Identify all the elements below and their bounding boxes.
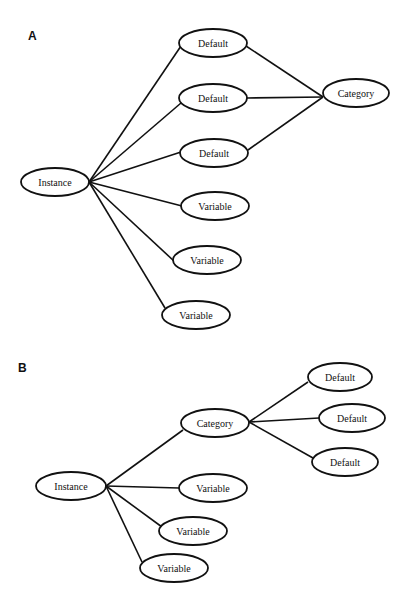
node-label: Instance	[38, 177, 72, 188]
node-default: Default	[312, 448, 378, 476]
node-default: Default	[308, 363, 372, 391]
node-label: Variable	[157, 563, 191, 574]
node-label: Default	[198, 93, 228, 104]
edge	[106, 486, 142, 562]
diagram-b: InstanceCategoryDefaultDefaultDefaultVar…	[18, 361, 385, 582]
node-instance: Instance	[36, 472, 106, 500]
edge	[89, 182, 165, 308]
edge	[106, 486, 162, 527]
node-label: Instance	[54, 481, 88, 492]
node-category: Category	[323, 79, 389, 107]
diagram-canvas: InstanceDefaultDefaultDefaultCategoryVar…	[0, 0, 403, 600]
node-label: Variable	[179, 310, 213, 321]
node-variable: Variable	[179, 474, 247, 502]
edge	[249, 382, 308, 422]
node-label: Default	[325, 372, 355, 383]
edge	[249, 422, 313, 458]
node-variable: Variable	[162, 301, 230, 329]
node-label: Variable	[198, 201, 232, 212]
node-label: Default	[198, 38, 228, 49]
edge	[89, 182, 175, 262]
node-label: Default	[199, 148, 229, 159]
node-label: Variable	[190, 255, 224, 266]
node-variable: Variable	[173, 246, 241, 274]
node-variable: Variable	[181, 192, 249, 220]
node-default: Default	[319, 404, 385, 432]
node-default: Default	[179, 29, 247, 57]
node-label: Category	[197, 418, 234, 429]
edge	[249, 418, 319, 422]
node-instance: Instance	[21, 168, 89, 196]
node-category: Category	[181, 409, 249, 437]
edge	[89, 152, 181, 182]
node-label: Default	[337, 413, 367, 424]
edge	[106, 430, 183, 486]
node-default: Default	[180, 139, 248, 167]
node-default: Default	[179, 84, 247, 112]
edge	[248, 97, 323, 150]
panel-label-a: A	[28, 29, 37, 43]
node-variable: Variable	[140, 554, 208, 582]
diagram-a: InstanceDefaultDefaultDefaultCategoryVar…	[21, 29, 389, 329]
edge	[106, 486, 179, 488]
edge	[246, 46, 323, 97]
edge	[247, 97, 323, 98]
panel-label-b: B	[18, 361, 27, 375]
node-label: Default	[330, 457, 360, 468]
node-label: Variable	[196, 483, 230, 494]
node-variable: Variable	[159, 517, 227, 545]
node-label: Variable	[176, 526, 210, 537]
node-label: Category	[338, 88, 375, 99]
